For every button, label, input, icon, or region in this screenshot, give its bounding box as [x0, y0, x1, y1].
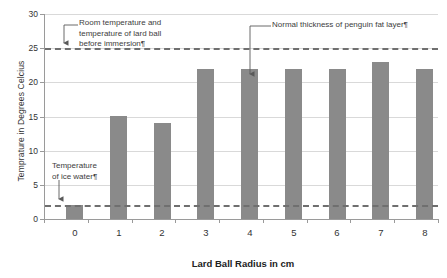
y-tick-mark-20 [40, 82, 44, 83]
x-tick-label-7: 7 [366, 227, 396, 238]
y-tick-label-10: 10 [12, 147, 38, 156]
y-tick-label-25: 25 [12, 44, 38, 53]
y-tick-label-0: 0 [12, 215, 38, 224]
bar-3 [197, 69, 214, 219]
x-tick-mark-4 [263, 219, 264, 223]
y-tick-mark-5 [40, 185, 44, 186]
y-tick-mark-10 [40, 151, 44, 152]
bar-8 [416, 69, 433, 219]
x-tick-label-4: 4 [235, 227, 265, 238]
y-tick-label-20: 20 [12, 78, 38, 87]
x-tick-mark-0 [88, 219, 89, 223]
gridline-30 [45, 14, 438, 15]
x-tick-mark-7 [394, 219, 395, 223]
bar-0 [66, 205, 83, 219]
x-tick-label-8: 8 [410, 227, 440, 238]
bar-6 [329, 69, 346, 219]
penguin-fat-annotation: Normal thickness of penguin fat layer¶ [272, 20, 442, 31]
x-tick-mark-left [44, 219, 45, 223]
ice-water-line [45, 205, 438, 207]
y-tick-mark-25 [40, 48, 44, 49]
x-tick-label-2: 2 [147, 227, 177, 238]
ice-water-annotation: Temperature of ice water¶ [52, 161, 122, 182]
room-temperature-annotation: Room temperature and temperature of lard… [79, 18, 209, 50]
x-tick-mark-8 [438, 219, 439, 223]
y-tick-label-30: 30 [12, 10, 38, 19]
x-tick-label-0: 0 [60, 227, 90, 238]
x-tick-label-6: 6 [322, 227, 352, 238]
bar-5 [285, 69, 302, 219]
x-tick-mark-3 [219, 219, 220, 223]
x-tick-label-5: 5 [279, 227, 309, 238]
x-axis-title: Lard Ball Radius in cm [44, 258, 442, 269]
x-tick-mark-1 [132, 219, 133, 223]
x-tick-mark-2 [175, 219, 176, 223]
y-tick-mark-15 [40, 117, 44, 118]
y-tick-label-15: 15 [12, 113, 38, 122]
x-tick-label-3: 3 [191, 227, 221, 238]
bar-4 [241, 69, 258, 219]
x-tick-mark-5 [307, 219, 308, 223]
y-tick-mark-30 [40, 14, 44, 15]
x-tick-mark-6 [350, 219, 351, 223]
y-tick-label-5: 5 [12, 181, 38, 190]
bar-chart: Temprature in Degrees Celcius 30 25 20 1… [0, 0, 447, 278]
x-axis-line [44, 219, 438, 220]
x-tick-label-1: 1 [104, 227, 134, 238]
bar-7 [372, 62, 389, 219]
